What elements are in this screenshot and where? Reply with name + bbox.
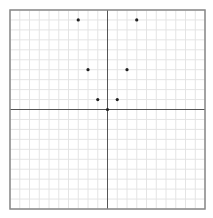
- data-point: [86, 68, 89, 71]
- data-point: [106, 108, 109, 111]
- data-point: [96, 98, 99, 101]
- coordinate-plane-chart: [0, 0, 213, 218]
- data-point: [125, 68, 128, 71]
- data-point: [135, 18, 138, 21]
- data-point: [77, 18, 80, 21]
- data-point: [116, 98, 119, 101]
- plot-area: [0, 0, 213, 218]
